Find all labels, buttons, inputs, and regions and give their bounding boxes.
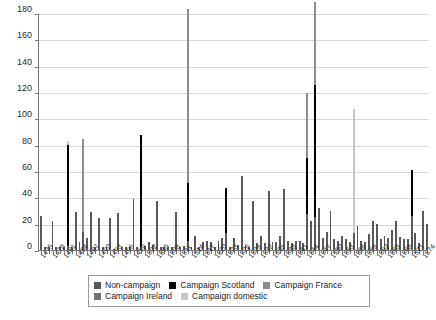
- y-tick-label: 180: [4, 4, 32, 14]
- bar-segment: [353, 109, 355, 233]
- bar-segment: [306, 158, 308, 215]
- legend-label: Non-campaign: [105, 280, 160, 290]
- bar-segment: [306, 93, 308, 158]
- y-tick-label: 0: [4, 241, 32, 251]
- legend-item-campaign-domestic[interactable]: Campaign domestic: [181, 291, 267, 301]
- bar-segment: [67, 145, 69, 246]
- bar-segment: [411, 170, 413, 216]
- bar-segment: [268, 191, 270, 250]
- legend-label: Campaign France: [274, 280, 342, 290]
- y-tick-label: 100: [4, 109, 32, 119]
- legend-label: Campaign domestic: [192, 291, 267, 301]
- legend-item-campaign-ireland[interactable]: Campaign Ireland: [94, 291, 172, 301]
- legend-label: Campaign Scotland: [180, 280, 254, 290]
- y-tick-label: 80: [4, 136, 32, 146]
- y-tick-label: 20: [4, 215, 32, 225]
- bar-segment: [156, 201, 158, 250]
- bar-segment: [187, 9, 189, 183]
- legend-row: Non-campaignCampaign ScotlandCampaign Fr…: [94, 280, 364, 290]
- bar-segment: [187, 183, 189, 241]
- legend-swatch-icon: [94, 282, 101, 289]
- bars-layer: [39, 14, 429, 250]
- chart-legend: Non-campaignCampaign ScotlandCampaign Fr…: [88, 275, 370, 307]
- legend-swatch-icon: [263, 282, 270, 289]
- bar-segment: [283, 189, 285, 250]
- y-tick-label: 60: [4, 162, 32, 172]
- y-tick-label: 40: [4, 188, 32, 198]
- y-tick-label: 120: [4, 83, 32, 93]
- bar-segment: [252, 201, 254, 250]
- bar-segment: [241, 176, 243, 250]
- bar-segment: [140, 135, 142, 247]
- bar-segment: [314, 2, 316, 85]
- bar-segment: [318, 208, 320, 250]
- y-tick-label: 160: [4, 30, 32, 40]
- y-tick-label: 140: [4, 57, 32, 67]
- bar-segment: [40, 216, 42, 250]
- bar-segment: [314, 85, 316, 217]
- legend-item-campaign-france[interactable]: Campaign France: [263, 280, 342, 290]
- legend-item-non-campaign[interactable]: Non-campaign: [94, 280, 160, 290]
- bar-segment: [225, 188, 227, 233]
- plot-area: [38, 14, 428, 251]
- legend-swatch-icon: [94, 293, 101, 300]
- legend-swatch-icon: [169, 282, 176, 289]
- bar-segment: [133, 199, 135, 250]
- legend-label: Campaign Ireland: [105, 291, 172, 301]
- bar-segment: [82, 139, 84, 231]
- bar-segment: [67, 141, 69, 145]
- legend-item-campaign-scotland[interactable]: Campaign Scotland: [169, 280, 254, 290]
- legend-swatch-icon: [181, 293, 188, 300]
- legend-row: Campaign IrelandCampaign domestic: [94, 291, 364, 301]
